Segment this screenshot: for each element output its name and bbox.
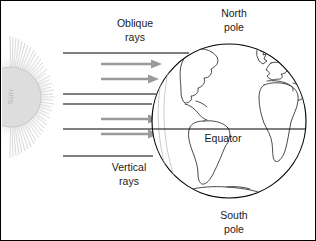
globe-graphic	[152, 44, 306, 199]
label-oblique-rays-line2: rays	[125, 31, 145, 43]
ray-arrow-vertical-2	[101, 130, 159, 139]
ray-arrow-oblique-2	[101, 75, 159, 84]
ray-arrow-vertical-1	[101, 115, 159, 124]
diagram-canvas: Sun	[1, 1, 316, 241]
label-north-pole-line2: pole	[224, 21, 244, 33]
diagram-figure: Sun	[0, 0, 316, 241]
label-vertical-rays-line2: rays	[119, 175, 139, 187]
ray-arrow-oblique-1	[101, 60, 162, 69]
globe-outline	[152, 44, 306, 198]
label-south-pole-line2: pole	[224, 223, 244, 235]
sun-label: Sun	[6, 90, 15, 105]
label-equator: Equator	[205, 132, 242, 144]
label-north-pole-line1: North	[221, 7, 247, 19]
sun-graphic: Sun	[1, 36, 57, 158]
label-south-pole-line1: South	[220, 209, 248, 221]
label-vertical-rays-line1: Vertical	[112, 161, 146, 173]
label-oblique-rays-line1: Oblique	[117, 17, 153, 29]
